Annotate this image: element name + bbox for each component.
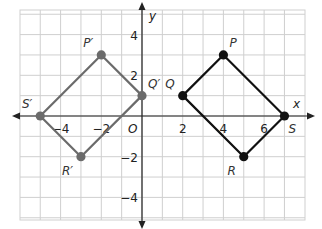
vertex-label: R′ <box>62 164 73 178</box>
grid <box>20 10 305 220</box>
vertex-label: P <box>229 36 237 50</box>
x-axis-label: x <box>292 97 301 111</box>
vertex-point <box>178 91 187 100</box>
vertex-label: Q <box>165 77 174 91</box>
vertex-point <box>137 91 146 100</box>
y-axis-arrow-down <box>139 221 146 229</box>
vertex-point <box>219 50 228 59</box>
y-axis-label: y <box>148 9 157 23</box>
y-tick-label: −4 <box>120 191 138 205</box>
x-axis-arrow-left <box>12 113 20 120</box>
vertex-point <box>97 50 106 59</box>
vertex-label: S <box>288 122 296 136</box>
vertex-label: R <box>227 164 235 178</box>
vertex-label: Q′ <box>148 77 160 91</box>
vertex-point <box>280 111 289 120</box>
y-tick-label: 4 <box>130 29 138 43</box>
vertex-point <box>239 152 248 161</box>
x-tick-label: 2 <box>179 122 187 136</box>
origin-label: O <box>128 122 137 136</box>
y-tick-label: 2 <box>130 69 138 83</box>
x-axis-arrow-right <box>307 113 315 120</box>
y-tick-label: −2 <box>120 151 138 165</box>
vertex-point <box>36 111 45 120</box>
vertex-label: S′ <box>22 97 33 111</box>
y-axis-arrow-up <box>139 2 146 10</box>
vertex-label: P′ <box>83 36 93 50</box>
coordinate-plane: x y O −4−224642−2−4 P′Q′R′S′PQRS <box>0 0 322 229</box>
vertex-point <box>76 152 85 161</box>
